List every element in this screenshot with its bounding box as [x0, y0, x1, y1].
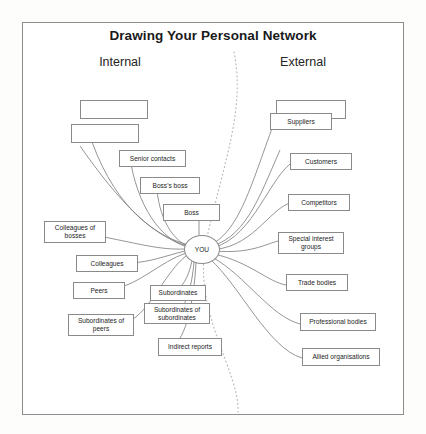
node-special-interest-groups[interactable]: Special interest groups	[278, 232, 344, 254]
node-indirect-reports[interactable]: Indirect reports	[158, 338, 222, 356]
node-subordinates[interactable]: Subordinates	[150, 285, 206, 301]
column-heading-external: External	[258, 55, 348, 69]
diagram-page: Drawing Your Personal Network Internal E…	[0, 0, 426, 434]
node-you[interactable]: YOU	[184, 235, 220, 264]
node-subordinates-of-peers[interactable]: Subordinates of peers	[68, 314, 134, 336]
node-customers[interactable]: Customers	[290, 153, 352, 170]
node-colleagues-of-bosses[interactable]: Colleagues of bosses	[44, 221, 106, 243]
node-competitors[interactable]: Competitors	[288, 194, 350, 211]
node-allied-organisations[interactable]: Allied organisations	[302, 348, 380, 366]
node-suppliers[interactable]: Suppliers	[270, 113, 332, 130]
node-boss[interactable]: Boss	[163, 204, 220, 221]
node-professional-bodies[interactable]: Professional bodies	[300, 313, 376, 331]
node-trade-bodies[interactable]: Trade bodies	[286, 274, 348, 291]
node-blank-2[interactable]	[71, 124, 139, 143]
column-heading-internal: Internal	[75, 55, 165, 69]
node-bosss-boss[interactable]: Boss's boss	[140, 177, 200, 194]
node-blank-1[interactable]	[80, 100, 148, 119]
node-peers[interactable]: Peers	[73, 282, 125, 299]
node-subordinates-of-subordinates[interactable]: Subordinates of subordinates	[144, 303, 210, 324]
node-senior-contacts[interactable]: Senior contacts	[119, 150, 186, 167]
page-title: Drawing Your Personal Network	[0, 28, 426, 43]
node-colleagues[interactable]: Colleagues	[76, 255, 138, 272]
